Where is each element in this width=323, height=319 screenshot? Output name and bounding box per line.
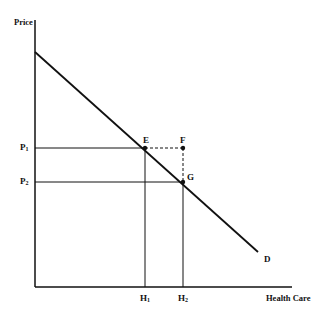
curve-d-label: D <box>264 255 271 264</box>
point-f-marker <box>181 146 185 150</box>
y-axis-label: Price <box>14 18 33 27</box>
chart-canvas <box>0 0 323 319</box>
point-g-label: G <box>187 173 194 182</box>
h2-subscript: 2 <box>185 297 188 303</box>
h1-text: H <box>140 293 147 303</box>
point-e-label: E <box>143 136 149 145</box>
point-e-marker <box>143 146 147 150</box>
p1-label: P1 <box>20 143 29 152</box>
p2-subscript: 2 <box>26 180 29 186</box>
h1-subscript: 1 <box>147 297 150 303</box>
p1-subscript: 1 <box>26 146 29 152</box>
p2-label: P2 <box>20 177 29 186</box>
x-axis-label: Health Care <box>266 294 310 303</box>
point-g-marker <box>181 180 185 184</box>
h2-text: H <box>178 293 185 303</box>
point-f-label: F <box>180 136 186 145</box>
h1-label: H1 <box>140 294 150 303</box>
demand-curve <box>35 52 258 252</box>
h2-label: H2 <box>178 294 188 303</box>
